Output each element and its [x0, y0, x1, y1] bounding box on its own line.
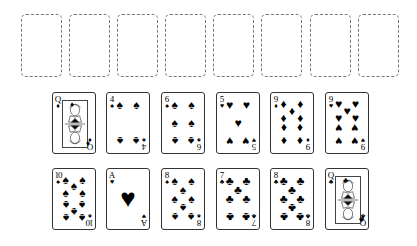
diamond-icon: ♦ — [54, 103, 62, 110]
heart-pip-icon: ♥ — [232, 117, 244, 129]
card-7-of-clubs[interactable]: 7♣7♣♣♣♣♣♣♣♣ — [216, 168, 260, 230]
spade-pip-icon: ♠ — [169, 135, 181, 147]
spade-pip-icon: ♠ — [185, 99, 197, 111]
spade-pip-icon: ♠ — [130, 135, 142, 147]
spade-pip-icon: ♠ — [114, 135, 126, 147]
spade-pip-icon: ♠ — [114, 99, 126, 111]
foundation-slot-6[interactable] — [261, 14, 302, 77]
spade-pip-icon: ♠ — [169, 211, 181, 223]
spade-pip-icon: ♠ — [130, 99, 142, 111]
queen-portrait-icon — [62, 100, 88, 148]
card-10-of-spades[interactable]: 10♠10♠♠♠♠♠♠♠♠♠♠♠ — [52, 168, 96, 230]
spade-pip-icon: ♠ — [60, 212, 72, 224]
card-q-of-clubs[interactable]: Q♣Q♣♣♣ — [325, 168, 369, 230]
card-5-of-hearts[interactable]: 5♥5♥♥♥♥♥♥ — [216, 92, 260, 154]
foundation-slot-1[interactable] — [21, 14, 62, 77]
card-8-of-spades[interactable]: 8♠8♠♠♠♠♠♠♠♠♠ — [161, 168, 205, 230]
spade-pip-icon: ♠ — [169, 99, 181, 111]
spade-pip-icon: ♠ — [169, 117, 181, 129]
heart-pip-icon: ♥ — [333, 135, 345, 147]
diamond-pip-icon: ♦ — [70, 101, 74, 109]
card-4-of-spades[interactable]: 4♠4♠♠♠♠♠ — [106, 92, 150, 154]
diamond-pip-icon: ♦ — [86, 139, 90, 147]
club-pip-icon: ♣ — [294, 211, 306, 223]
heart-pip-icon: ♥ — [224, 99, 236, 111]
heart-pip-icon: ♥ — [333, 122, 345, 134]
card-a-of-hearts[interactable]: A♥A♥♥ — [106, 168, 150, 230]
spade-pip-icon: ♠ — [185, 135, 197, 147]
card-index-tl: Q♣ — [327, 171, 335, 186]
club-pip-icon: ♣ — [224, 193, 236, 205]
club-pip-icon: ♣ — [224, 211, 236, 223]
card-6-of-spades[interactable]: 6♠6♠♠♠♠♠♠♠ — [161, 92, 205, 154]
diamond-pip-icon: ♦ — [294, 122, 306, 134]
card-index-tl: A♥ — [108, 171, 116, 186]
ace-heart-icon: ♥ — [115, 186, 141, 212]
foundation-slot-2[interactable] — [69, 14, 110, 77]
club-pip-icon: ♣ — [278, 211, 290, 223]
card-index-br: A♥ — [140, 212, 148, 227]
card-9-of-diamonds[interactable]: 9♦9♦♦♦♦♦♦♦♦♦♦ — [270, 92, 314, 154]
club-pip-icon: ♣ — [343, 177, 348, 185]
heart-icon: ♥ — [108, 179, 116, 186]
heart-pip-icon: ♥ — [349, 122, 361, 134]
diamond-pip-icon: ♦ — [278, 135, 290, 147]
card-index-tl: Q♦ — [54, 95, 62, 110]
diamond-pip-icon: ♦ — [278, 122, 290, 134]
foundation-slot-8[interactable] — [358, 14, 399, 77]
club-icon: ♣ — [327, 179, 335, 186]
heart-pip-icon: ♥ — [240, 99, 252, 111]
heart-pip-icon: ♥ — [349, 135, 361, 147]
club-pip-icon: ♣ — [240, 211, 252, 223]
foundation-slot-4[interactable] — [165, 14, 206, 77]
spade-pip-icon: ♠ — [185, 117, 197, 129]
card-8-of-clubs[interactable]: 8♣8♣♣♣♣♣♣♣♣♣ — [270, 168, 314, 230]
club-pip-icon: ♣ — [240, 193, 252, 205]
heart-pip-icon: ♥ — [240, 135, 252, 147]
foundation-slot-7[interactable] — [310, 14, 351, 77]
foundation-slot-5[interactable] — [213, 14, 254, 77]
diamond-pip-icon: ♦ — [294, 135, 306, 147]
foundation-slot-3[interactable] — [117, 14, 158, 77]
heart-pip-icon: ♥ — [224, 135, 236, 147]
spade-pip-icon: ♠ — [185, 211, 197, 223]
card-9-of-hearts[interactable]: 9♥9♥♥♥♥♥♥♥♥♥♥ — [325, 92, 369, 154]
spade-pip-icon: ♠ — [76, 212, 88, 224]
club-pip-icon: ♣ — [359, 215, 364, 223]
card-q-of-diamonds[interactable]: Q♦Q♦♦♦ — [52, 92, 96, 154]
